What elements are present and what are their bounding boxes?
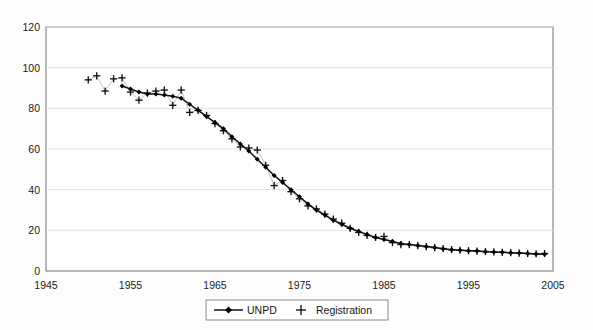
x-axis-tick-labels: 1945195519651975198519952005: [34, 279, 565, 291]
y-tick-label: 0: [34, 265, 40, 277]
y-tick-label: 20: [28, 224, 40, 236]
y-tick-label: 100: [22, 62, 40, 74]
legend-label-registration: Registration: [316, 304, 372, 316]
x-tick-label: 2005: [541, 279, 565, 291]
chart-container: 020406080100120 194519551965197519851995…: [0, 0, 593, 330]
x-tick-label: 1975: [288, 279, 312, 291]
x-tick-label: 1985: [372, 279, 396, 291]
legend-label-unpd: UNPD: [247, 304, 277, 316]
chart-legend: UNPD Registration: [206, 300, 388, 320]
x-tick-label: 1995: [457, 279, 481, 291]
y-tick-label: 120: [22, 21, 40, 33]
x-tick-label: 1965: [203, 279, 227, 291]
line-chart: 020406080100120 194519551965197519851995…: [0, 0, 593, 330]
y-axis-tick-labels: 020406080100120: [22, 21, 40, 277]
x-tick-label: 1955: [119, 279, 143, 291]
x-tick-label: 1945: [34, 279, 58, 291]
y-tick-label: 60: [28, 143, 40, 155]
y-tick-label: 40: [28, 184, 40, 196]
y-tick-label: 80: [28, 102, 40, 114]
